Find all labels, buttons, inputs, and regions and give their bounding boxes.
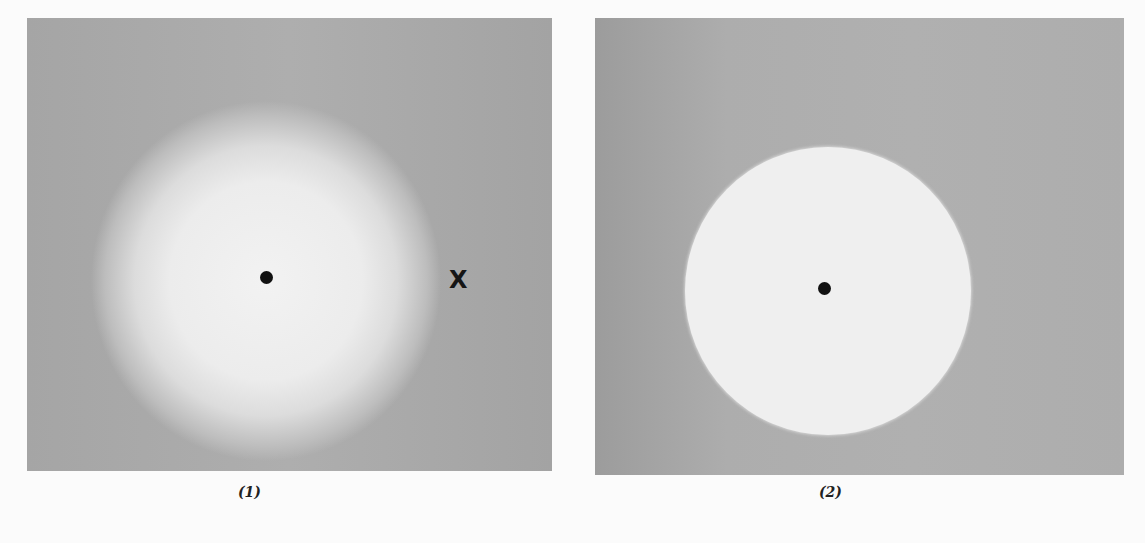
figure-panel-2	[595, 18, 1124, 475]
panel-caption-2: (2)	[819, 484, 842, 500]
center-dot	[818, 282, 831, 295]
center-dot	[260, 271, 273, 284]
x-marker: X	[449, 268, 468, 292]
figure-panel-1: X	[27, 18, 552, 471]
panel-caption-1: (1)	[238, 484, 261, 500]
